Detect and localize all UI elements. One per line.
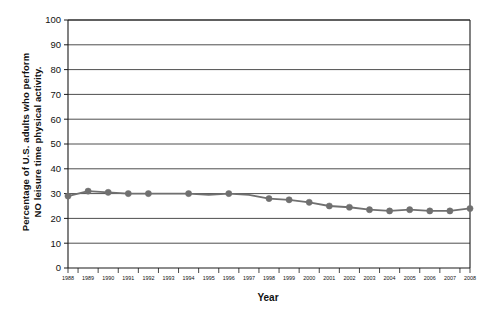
y-tick-label: 20	[50, 213, 61, 224]
x-tick-label: 1988	[62, 275, 74, 281]
data-point-marker	[186, 191, 192, 197]
data-point-marker	[145, 191, 151, 197]
x-tick-label: 2001	[323, 275, 335, 281]
x-tick-label: 2004	[384, 275, 396, 281]
data-point-marker	[427, 208, 433, 214]
y-tick-label: 50	[50, 138, 61, 149]
y-axis-ticks: 0102030405060708090100	[45, 14, 68, 273]
data-point-marker	[226, 191, 232, 197]
x-tick-label: 1994	[183, 275, 195, 281]
y-tick-label: 40	[50, 163, 61, 174]
data-point-marker	[447, 208, 453, 214]
x-tick-label: 1992	[142, 275, 154, 281]
data-point-marker	[286, 197, 292, 203]
x-axis-ticks: 1988198919901991199219931994199519961997…	[62, 268, 476, 281]
y-tick-label: 70	[50, 89, 61, 100]
data-point-marker	[65, 193, 71, 199]
y-tick-label: 0	[56, 262, 61, 273]
y-tick-label: 80	[50, 64, 61, 75]
y-tick-label: 10	[50, 238, 61, 249]
data-point-marker	[85, 188, 91, 194]
x-tick-label: 2005	[404, 275, 416, 281]
x-tick-label: 2002	[343, 275, 355, 281]
data-point-marker	[407, 207, 413, 213]
x-tick-label: 2003	[364, 275, 376, 281]
y-tick-label: 60	[50, 114, 61, 125]
data-point-marker	[266, 195, 272, 201]
data-point-marker	[346, 204, 352, 210]
y-tick-label: 30	[50, 188, 61, 199]
x-tick-label: 1989	[82, 275, 94, 281]
x-tick-label: 2007	[444, 275, 456, 281]
data-point-marker	[105, 189, 111, 195]
data-series-markers	[65, 188, 473, 214]
x-tick-label: 1995	[203, 275, 215, 281]
x-tick-label: 1996	[223, 275, 235, 281]
x-tick-label: 1999	[283, 275, 295, 281]
x-tick-label: 1991	[122, 275, 134, 281]
x-tick-label: 1997	[243, 275, 255, 281]
x-tick-label: 2008	[464, 275, 476, 281]
data-point-marker	[467, 205, 473, 211]
data-point-marker	[387, 208, 393, 214]
chart-container: Percentage of U.S. adults who perform NO…	[0, 0, 489, 316]
x-tick-label: 2000	[303, 275, 315, 281]
x-tick-label: 2006	[424, 275, 436, 281]
data-point-marker	[366, 207, 372, 213]
x-tick-label: 1998	[263, 275, 275, 281]
data-point-marker	[125, 191, 131, 197]
line-chart-plot: 0102030405060708090100 19881989199019911…	[0, 0, 489, 316]
y-tick-label: 100	[45, 14, 61, 25]
y-tick-label: 90	[50, 39, 61, 50]
x-axis-label: Year	[60, 292, 476, 303]
data-point-marker	[306, 199, 312, 205]
data-point-marker	[326, 203, 332, 209]
x-tick-label: 1993	[163, 275, 175, 281]
x-tick-label: 1990	[102, 275, 114, 281]
